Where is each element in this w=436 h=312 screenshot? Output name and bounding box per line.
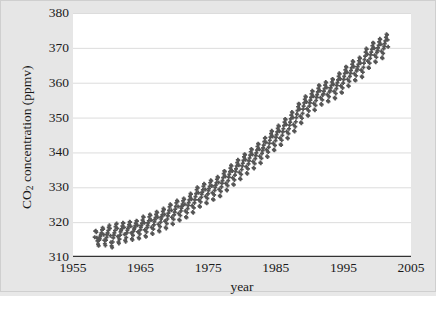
- y-tick-label: 330: [5, 181, 69, 195]
- data-markers-group: [93, 32, 390, 249]
- x-tick-label: 1985: [262, 261, 289, 275]
- y-tick-label: 380: [5, 6, 69, 20]
- plot-area: [73, 13, 411, 257]
- x-tick-label: 1955: [60, 261, 87, 275]
- y-tick-label: 340: [5, 146, 69, 160]
- figure-container: 310320330340350360370380 195519651975198…: [0, 0, 436, 312]
- y-tick-label: 350: [5, 111, 69, 125]
- y-axis-title-main: CO: [19, 190, 34, 209]
- caption-strip: [0, 296, 436, 312]
- x-axis-title: year: [73, 279, 411, 295]
- figure-panel: 310320330340350360370380 195519651975198…: [0, 0, 436, 292]
- y-axis-title-rest: concentration (ppmv): [19, 65, 34, 185]
- y-tick-label: 360: [5, 76, 69, 90]
- x-tick-label: 1995: [330, 261, 357, 275]
- chart-svg: [73, 13, 411, 257]
- y-tick-label: 320: [5, 215, 69, 229]
- gridlines-group: [73, 14, 411, 257]
- x-tick-label: 1975: [195, 261, 222, 275]
- x-tick-label: 2005: [398, 261, 425, 275]
- y-tick-label: 370: [5, 41, 69, 55]
- y-axis-title: CO2 concentration (ppmv): [19, 27, 35, 247]
- y-axis-title-subscript: 2: [25, 185, 35, 190]
- series-co2-markers: [93, 32, 390, 249]
- x-tick-label: 1965: [127, 261, 154, 275]
- x-axis-tick-labels: 195519651975198519952005: [73, 261, 411, 279]
